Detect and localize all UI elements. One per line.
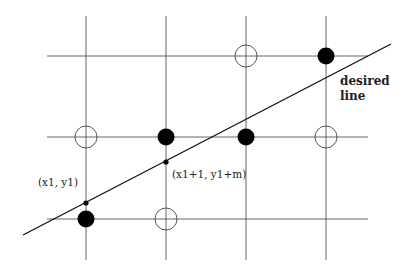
pixel-circles bbox=[75, 45, 337, 230]
pixel-on bbox=[238, 129, 255, 146]
desired-line bbox=[23, 44, 391, 235]
desired-line-label-line1: desired bbox=[340, 74, 390, 88]
desired-line-label-line2: line bbox=[340, 89, 366, 103]
pixel-on bbox=[318, 48, 335, 65]
sample-point bbox=[83, 200, 88, 205]
pixel-on bbox=[78, 211, 95, 228]
point-label-x1-y1: (x1, y1) bbox=[38, 176, 78, 188]
sample-point bbox=[163, 159, 168, 164]
diagram-canvas: (x1, y1) (x1+1, y1+m) desired line bbox=[0, 0, 410, 274]
pixel-on bbox=[158, 129, 175, 146]
point-label-x1plus1-y1plusm: (x1+1, y1+m) bbox=[172, 168, 246, 180]
